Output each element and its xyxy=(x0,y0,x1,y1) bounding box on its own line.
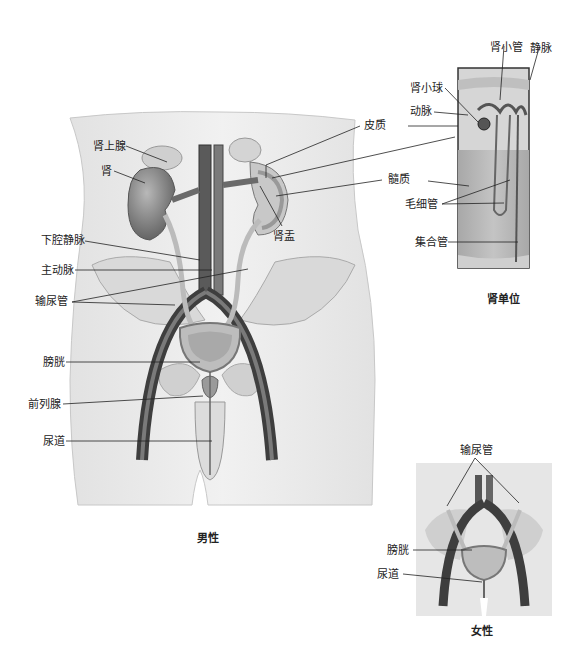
label-medulla: 髓质 xyxy=(388,173,410,186)
caption-female: 女性 xyxy=(471,622,493,638)
label-renal-pelvis: 肾盂 xyxy=(273,230,295,243)
label-renal-tubule: 肾小管 xyxy=(490,41,523,54)
nephron-inset xyxy=(458,68,529,268)
caption-nephron: 肾单位 xyxy=(487,290,520,306)
label-capillaries: 毛细管 xyxy=(405,198,438,211)
label-female-ureter: 输尿管 xyxy=(460,444,493,457)
label-collecting-duct: 集合管 xyxy=(415,236,448,249)
label-urethra: 尿道 xyxy=(43,435,65,448)
label-female-bladder: 膀胱 xyxy=(387,544,409,557)
label-aorta: 主动脉 xyxy=(41,264,74,277)
female-inset xyxy=(416,463,552,616)
urinary-system-diagram xyxy=(0,0,586,668)
label-glomerulus: 肾小球 xyxy=(410,82,443,95)
label-vein: 静脉 xyxy=(530,42,552,55)
label-artery: 动脉 xyxy=(410,105,432,118)
label-cortex: 皮质 xyxy=(364,119,386,132)
label-prostate: 前列腺 xyxy=(28,398,61,411)
caption-male: 男性 xyxy=(197,529,219,545)
label-ureter: 输尿管 xyxy=(35,295,68,308)
label-female-urethra: 尿道 xyxy=(377,568,399,581)
male-torso xyxy=(70,112,375,505)
label-kidney: 肾 xyxy=(101,165,112,178)
label-adrenal-gland: 肾上腺 xyxy=(93,140,126,153)
label-inferior-vena-cava: 下腔静脉 xyxy=(41,234,85,247)
label-bladder: 膀胱 xyxy=(43,356,65,369)
